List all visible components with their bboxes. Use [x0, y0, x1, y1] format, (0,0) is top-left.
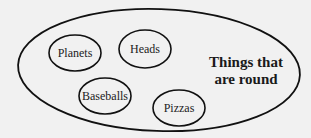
outer-set-label-line2: are round [209, 71, 283, 88]
set-diagram: Planets Heads Baseballs Pizzas Things th… [0, 0, 311, 138]
member-label-planets: Planets [58, 46, 93, 61]
outer-set-label: Things that are round [209, 54, 283, 88]
member-label-heads: Heads [130, 42, 160, 57]
outer-set-label-line1: Things that [209, 54, 283, 71]
member-label-pizzas: Pizzas [164, 101, 195, 116]
member-label-baseballs: Baseballs [82, 89, 128, 104]
